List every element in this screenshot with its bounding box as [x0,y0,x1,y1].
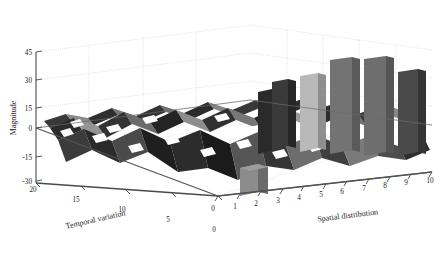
x-tick-label: 8 [383,182,387,190]
y-tick-label: 15 [72,196,80,204]
y-tick-label: 0 [212,226,216,234]
column-c [330,57,352,154]
x-axis-title: Spatial distribution [317,207,379,223]
x-tick-label: 4 [297,194,301,202]
z-tick-label: -15 [22,154,32,162]
y-tick-label: 20 [29,186,37,194]
x-tick-label: 6 [340,188,344,196]
x-tick-label: 5 [319,191,323,199]
z-tick-label: 0 [28,125,32,133]
x-tick-label: 1 [233,203,237,211]
x-tick-label: 2 [254,200,258,208]
column-stub [258,89,272,154]
z-tick-label: 15 [25,105,33,113]
column-a [272,79,288,150]
z-tick-label: 30 [25,77,33,85]
plot-canvas: 45 30 15 0 -15 -30 20 15 10 5 0 [0,0,448,255]
column-e [398,69,418,156]
x-tick-label: 10 [426,177,434,185]
y-ticks: 20 15 10 5 0 [29,183,222,234]
figure-3d-surface-plot: 45 30 15 0 -15 -30 20 15 10 5 0 [0,0,448,255]
y-tick-label: 5 [166,216,170,224]
z-tick-label: 45 [25,49,33,57]
y-axis-title: Temporal variation [65,208,126,230]
x-tick-label: 0 [211,205,215,213]
z-axis-title: Magnitude [9,100,18,135]
column-b [300,73,318,152]
x-tick-label: 3 [276,197,280,205]
column-d [364,56,386,156]
z-tick-label: -30 [22,178,32,186]
x-tick-label: 9 [404,179,408,187]
x-tick-label: 7 [362,185,366,193]
